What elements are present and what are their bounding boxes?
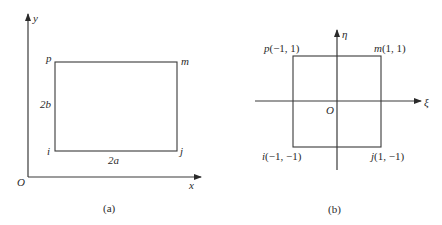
corner-j-label: j (178, 145, 183, 157)
eta-axis-label: η (342, 28, 347, 40)
x-axis-label: x (188, 179, 194, 191)
caption-b: (b) (328, 203, 341, 216)
corner-m-label: m (181, 55, 189, 67)
corner-j-label-b: j(1, −1) (369, 150, 404, 163)
width-label: 2a (108, 154, 120, 166)
corner-m-name: m (374, 42, 382, 54)
corner-p-label-b: p(−1, 1) (263, 42, 300, 55)
xi-axis-label: ξ (424, 96, 429, 109)
corner-i-coords: (−1, −1) (265, 150, 302, 163)
origin-label: O (17, 176, 25, 188)
caption-a: (a) (103, 202, 116, 215)
element-rectangle (55, 62, 177, 151)
corner-m-coords: (1, 1) (382, 42, 406, 55)
corner-i-label: i (47, 145, 50, 157)
corner-p-label: p (45, 52, 52, 64)
corner-p-coords: (−1, 1) (270, 42, 300, 55)
panel-a: y x O p m i j 2b 2a (a) (17, 12, 201, 215)
corner-i-label-b: i(−1, −1) (262, 150, 302, 163)
corner-j-coords: (1, −1) (374, 150, 404, 163)
panel-b: η ξ O p(−1, 1) m(1, 1) i(−1, −1) j(1, −1… (255, 28, 429, 216)
corner-m-label-b: m(1, 1) (374, 42, 406, 55)
origin-label-b: O (326, 104, 334, 116)
y-axis-label: y (32, 12, 38, 24)
figure: y x O p m i j 2b 2a (a) η ξ O p(−1, 1) m… (0, 0, 442, 225)
height-label: 2b (40, 98, 52, 110)
